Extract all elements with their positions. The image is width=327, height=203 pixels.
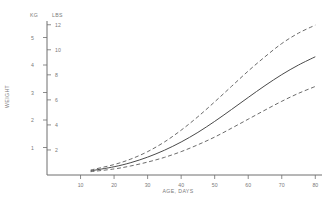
chart-canvas: KG LBS WEIGHT AGE, DAYS 12345 24681012 1… — [0, 0, 327, 203]
kg-tick-label: 4 — [31, 62, 34, 68]
left-unit-label: KG — [30, 12, 38, 18]
x-tick-label: 70 — [279, 182, 285, 188]
lbs-tick-label: 4 — [55, 122, 58, 128]
curve-upper — [91, 25, 316, 170]
x-tick-label: 30 — [145, 182, 151, 188]
x-tick-label: 40 — [178, 182, 184, 188]
growth-chart: KG LBS WEIGHT AGE, DAYS 12345 24681012 1… — [0, 0, 327, 203]
curve-group — [91, 25, 316, 172]
curve-median — [91, 57, 316, 171]
x-axis-title: AGE, DAYS — [162, 188, 193, 194]
lbs-tick-group: 24681012 — [47, 22, 61, 153]
lbs-tick-label: 2 — [55, 147, 58, 153]
x-tick-group: 1020304050607080 — [78, 175, 319, 188]
lbs-tick-label: 10 — [55, 47, 61, 53]
x-tick-label: 50 — [212, 182, 218, 188]
lbs-tick-label: 12 — [55, 22, 61, 28]
right-unit-label: LBS — [52, 12, 63, 18]
kg-tick-label: 2 — [31, 117, 34, 123]
x-tick-label: 80 — [312, 182, 318, 188]
x-tick-label: 10 — [78, 182, 84, 188]
kg-tick-label: 1 — [31, 145, 34, 151]
y-axis-title: WEIGHT — [4, 84, 10, 108]
lbs-tick-label: 6 — [55, 97, 58, 103]
kg-tick-label: 3 — [31, 90, 34, 96]
x-tick-label: 20 — [111, 182, 117, 188]
x-tick-label: 60 — [245, 182, 251, 188]
kg-tick-group: 12345 — [31, 35, 47, 151]
lbs-tick-label: 8 — [55, 72, 58, 78]
kg-tick-label: 5 — [31, 35, 34, 41]
